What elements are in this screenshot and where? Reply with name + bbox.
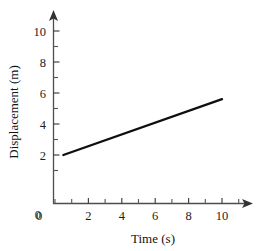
x-tick-label-2: 2 (85, 209, 91, 223)
data-series-displacement (63, 99, 222, 155)
x-tick-label-10: 10 (216, 209, 229, 223)
x-axis-tick-labels: 0246810 (36, 209, 228, 223)
y-axis-tick-labels: 0246810 (34, 25, 47, 223)
y-tick-label-4: 4 (40, 118, 47, 132)
y-tick-label-6: 6 (40, 87, 46, 101)
y-tick-label-8: 8 (40, 56, 46, 70)
x-tick-label-6: 6 (152, 209, 158, 223)
x-tick-label-8: 8 (185, 209, 191, 223)
chart-plot-area: 0246810 0246810 Time (s) Displacement (m… (0, 0, 263, 251)
x-tick-label-0: 0 (36, 209, 42, 223)
chart-figure: 0246810 0246810 Time (s) Displacement (m… (0, 0, 263, 251)
y-tick-label-10: 10 (34, 25, 47, 39)
x-tick-label-4: 4 (119, 209, 126, 223)
series-line-displacement (63, 99, 222, 155)
y-tick-label-2: 2 (40, 149, 46, 163)
x-axis-title: Time (s) (131, 231, 175, 246)
y-axis-title: Displacement (m) (6, 65, 21, 159)
